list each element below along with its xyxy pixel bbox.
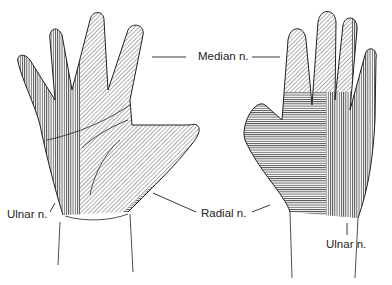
- radial-leader-right: [252, 205, 270, 212]
- nerve-diagram: Median n. Ulnar n. Radial n. Ulnar n.: [0, 0, 392, 285]
- dorsal-hand-regions: [230, 0, 392, 285]
- wrist-line: [130, 214, 133, 272]
- radial-leader-left: [153, 193, 196, 212]
- radial-nerve-label: Radial n.: [201, 208, 246, 220]
- ulnar-leader-left: [50, 203, 55, 212]
- median-region-palmar: [0, 0, 200, 285]
- ulnar-nerve-label-dorsal: Ulnar n.: [326, 239, 366, 251]
- wrist-line: [290, 212, 292, 278]
- ulnar-nerve-label-palmar: Ulnar n.: [7, 209, 47, 221]
- median-nerve-label: Median n.: [198, 51, 249, 63]
- wrist-line: [58, 222, 60, 265]
- ulnar-region-palmar: [0, 0, 80, 220]
- palmar-hand-regions: [0, 0, 200, 285]
